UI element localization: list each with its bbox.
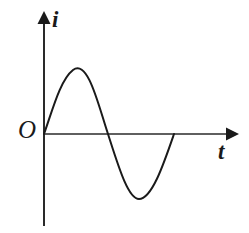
t-axis-label: t [218,140,224,163]
origin-label: O [18,117,36,142]
t-axis-arrowhead [226,128,239,141]
i-axis-label: i [52,8,58,31]
i-axis-arrowhead [38,11,51,24]
sine-wave-figure: i t O [0,0,249,233]
plot-canvas [0,0,249,233]
